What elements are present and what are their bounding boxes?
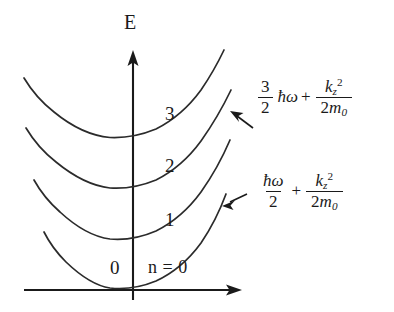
mass-symbol: m xyxy=(329,98,341,117)
parabola-n3 xyxy=(24,50,224,138)
band-label-2: 2 xyxy=(165,156,175,175)
diagram-canvas xyxy=(0,0,394,312)
fraction-kinetic-term: kz2 2m0 xyxy=(306,172,342,211)
pointer-line-lower xyxy=(230,194,247,202)
fraction-denominator: 2 xyxy=(258,97,273,117)
fraction-hbar-omega-over-two: ħω 2 xyxy=(260,172,287,211)
kinetic-numerator: kz2 xyxy=(320,78,348,97)
energy-axis-label: E xyxy=(124,12,136,32)
parabola-n2 xyxy=(26,90,231,188)
band-label-n-equals-0: n = 0 xyxy=(148,258,188,276)
kinetic-denominator: 2m0 xyxy=(306,191,342,211)
landau-level-figure: E 3 2 1 0 n = 0 3 2 ħω + kz2 2m0 ħω 2 + … xyxy=(0,0,394,312)
energy-formula-n0-lower: ħω 2 + kz2 2m0 xyxy=(258,172,345,211)
fraction-kinetic-term: kz2 2m0 xyxy=(316,78,352,117)
plus-operator: + xyxy=(301,87,311,107)
hbar-omega-symbol: ħω xyxy=(278,87,299,107)
mass-symbol: m xyxy=(320,192,332,211)
denominator-coefficient: 2 xyxy=(311,192,320,211)
mass-subscript-0: 0 xyxy=(332,200,338,212)
band-label-0: 0 xyxy=(110,258,120,277)
fraction-three-halves: 3 2 xyxy=(258,78,273,117)
k-superscript-2: 2 xyxy=(337,76,343,88)
pointer-arrowhead-lower xyxy=(222,201,235,211)
mass-subscript-0: 0 xyxy=(341,106,347,118)
plus-operator: + xyxy=(292,181,302,201)
band-label-3: 3 xyxy=(165,104,175,123)
k-superscript-2: 2 xyxy=(327,170,333,182)
energy-formula-n1-upper: 3 2 ħω + kz2 2m0 xyxy=(256,78,354,117)
k-symbol: k xyxy=(325,77,333,96)
fraction-numerator: 3 xyxy=(258,78,273,97)
kinetic-numerator: kz2 xyxy=(311,172,339,191)
parabola-n0 xyxy=(44,194,226,289)
pointer-line-upper xyxy=(237,116,253,128)
denominator-coefficient: 2 xyxy=(321,98,330,117)
hbar-omega-numerator: ħω xyxy=(260,172,287,191)
k-symbol: k xyxy=(316,171,324,190)
band-label-1: 1 xyxy=(165,210,175,229)
two-denominator: 2 xyxy=(266,191,281,211)
kinetic-denominator: 2m0 xyxy=(316,97,352,117)
